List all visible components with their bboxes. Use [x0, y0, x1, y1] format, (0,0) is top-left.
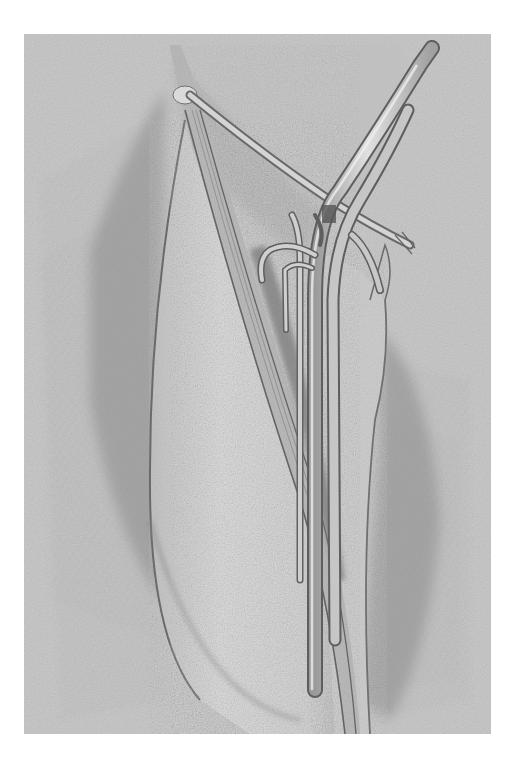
anatomical-drawing: [0, 0, 513, 767]
vessel-band: [322, 205, 336, 223]
